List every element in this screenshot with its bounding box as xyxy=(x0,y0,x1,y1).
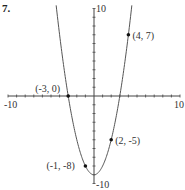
data-point xyxy=(84,164,88,168)
point-label: (2, -5) xyxy=(115,135,140,147)
y-max-label: 10 xyxy=(96,3,106,14)
x-max-label: 10 xyxy=(174,99,184,110)
parabola-graph: -101010-10(-3, 0)(-1, -8)(2, -5)(4, 7) xyxy=(0,0,185,189)
y-min-label: -10 xyxy=(96,179,109,190)
point-label: (4, 7) xyxy=(132,30,154,42)
point-label: (-3, 0) xyxy=(35,83,60,95)
data-point xyxy=(66,94,70,98)
x-min-label: -10 xyxy=(4,99,17,110)
data-point xyxy=(127,33,131,37)
point-label: (-1, -8) xyxy=(46,160,74,172)
data-point xyxy=(109,138,113,142)
